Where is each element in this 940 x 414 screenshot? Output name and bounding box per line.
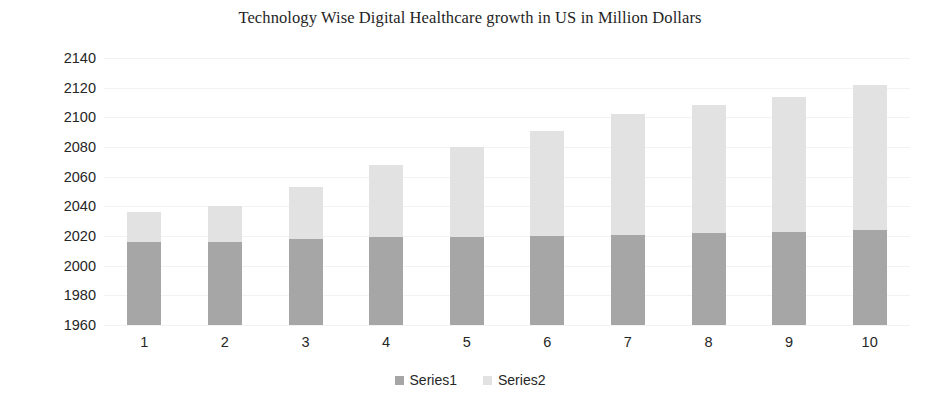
- bar-segment-series2[interactable]: [450, 147, 484, 237]
- bar-segment-series2[interactable]: [289, 187, 323, 239]
- bar-segment-series1[interactable]: [289, 239, 323, 325]
- bar-segment-series2[interactable]: [208, 206, 242, 242]
- y-axis: 2140212021002080206020402020200019801960: [30, 58, 96, 325]
- bar-segment-series1[interactable]: [611, 235, 645, 325]
- chart-legend: Series1Series2: [0, 372, 940, 388]
- y-tick-label: 2020: [64, 228, 96, 244]
- y-tick-label: 2000: [64, 258, 96, 274]
- x-tick-label: 3: [301, 334, 309, 350]
- chart-container: Technology Wise Digital Healthcare growt…: [0, 0, 940, 414]
- bar-segment-series2[interactable]: [127, 212, 161, 242]
- bar-segment-series2[interactable]: [611, 114, 645, 234]
- legend-swatch-icon: [483, 376, 492, 385]
- bar-segment-series2[interactable]: [692, 105, 726, 233]
- legend-label: Series1: [410, 372, 457, 388]
- bar-segment-series1[interactable]: [127, 242, 161, 325]
- y-tick-label: 2120: [64, 80, 96, 96]
- y-tick-label: 2040: [64, 198, 96, 214]
- x-tick-label: 8: [704, 334, 712, 350]
- legend-item[interactable]: Series2: [483, 372, 545, 388]
- gridline: [104, 325, 910, 326]
- bar-group[interactable]: [450, 58, 484, 325]
- y-tick-label: 2060: [64, 169, 96, 185]
- bar-segment-series2[interactable]: [853, 85, 887, 230]
- bar-group[interactable]: [853, 58, 887, 325]
- bar-group[interactable]: [289, 58, 323, 325]
- bar-segment-series2[interactable]: [772, 97, 806, 232]
- bar-group[interactable]: [530, 58, 564, 325]
- bar-group[interactable]: [692, 58, 726, 325]
- bar-segment-series1[interactable]: [772, 232, 806, 325]
- x-tick-label: 1: [140, 334, 148, 350]
- plot-area: [104, 58, 910, 325]
- y-tick-label: 2100: [64, 109, 96, 125]
- y-tick-label: 2140: [64, 50, 96, 66]
- y-tick-label: 1980: [64, 287, 96, 303]
- bar-segment-series1[interactable]: [692, 233, 726, 325]
- bar-segment-series1[interactable]: [853, 230, 887, 325]
- x-tick-label: 2: [221, 334, 229, 350]
- x-tick-label: 10: [862, 334, 878, 350]
- bar-segment-series1[interactable]: [369, 237, 403, 325]
- bar-group[interactable]: [208, 58, 242, 325]
- legend-item[interactable]: Series1: [395, 372, 457, 388]
- y-tick-label: 2080: [64, 139, 96, 155]
- bar-group[interactable]: [772, 58, 806, 325]
- legend-label: Series2: [498, 372, 545, 388]
- bar-segment-series2[interactable]: [530, 131, 564, 236]
- bar-group[interactable]: [611, 58, 645, 325]
- bar-segment-series2[interactable]: [369, 165, 403, 238]
- bar-group[interactable]: [369, 58, 403, 325]
- x-tick-label: 7: [624, 334, 632, 350]
- y-tick-label: 1960: [64, 317, 96, 333]
- bar-group[interactable]: [127, 58, 161, 325]
- x-tick-label: 9: [785, 334, 793, 350]
- x-tick-label: 4: [382, 334, 390, 350]
- bar-segment-series1[interactable]: [450, 237, 484, 325]
- legend-swatch-icon: [395, 376, 404, 385]
- x-tick-label: 5: [463, 334, 471, 350]
- chart-title: Technology Wise Digital Healthcare growt…: [0, 8, 940, 28]
- bars-layer: [104, 58, 910, 325]
- bar-segment-series1[interactable]: [208, 242, 242, 325]
- x-tick-label: 6: [543, 334, 551, 350]
- x-axis: 12345678910: [104, 330, 910, 356]
- bar-segment-series1[interactable]: [530, 236, 564, 325]
